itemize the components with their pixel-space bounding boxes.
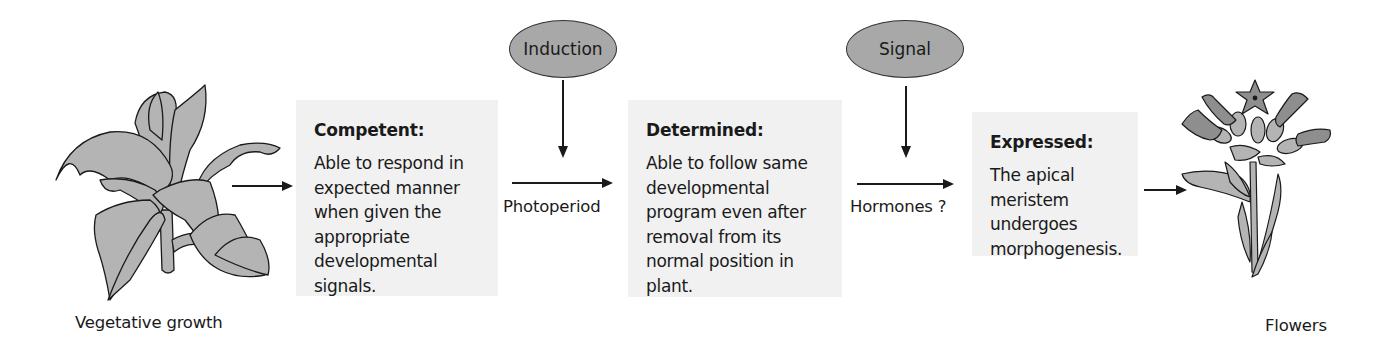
signal-oval: Signal <box>846 20 964 78</box>
stage-description: Able to respond in expected manner when … <box>314 151 498 298</box>
arrow-icon <box>512 177 614 189</box>
start-label: Vegetative growth <box>75 313 223 332</box>
stage-title: Expressed: <box>990 132 1138 152</box>
stage-box-expressed: Expressed: The apical meristem undergoes… <box>972 112 1138 256</box>
down-arrow-icon <box>900 86 912 160</box>
arrow-icon <box>232 180 294 192</box>
arrow-icon <box>857 178 957 190</box>
oval-label: Induction <box>523 39 602 59</box>
arrow-label-hormones: Hormones ? <box>850 197 946 216</box>
end-label: Flowers <box>1265 316 1327 335</box>
stage-description: Able to follow same developmental progra… <box>646 151 842 298</box>
arrow-label-photoperiod: Photoperiod <box>503 197 600 216</box>
stage-title: Competent: <box>314 120 498 140</box>
stage-box-competent: Competent: Able to respond in expected m… <box>296 100 498 296</box>
flowering-plant-icon <box>1180 102 1340 282</box>
induction-oval: Induction <box>509 20 617 78</box>
vegetative-plant-icon <box>50 80 290 310</box>
stage-box-determined: Determined: Able to follow same developm… <box>628 100 842 297</box>
down-arrow-icon <box>557 80 569 160</box>
stage-title: Determined: <box>646 120 842 140</box>
oval-label: Signal <box>879 39 931 59</box>
stage-description: The apical meristem undergoes morphogene… <box>990 163 1138 261</box>
